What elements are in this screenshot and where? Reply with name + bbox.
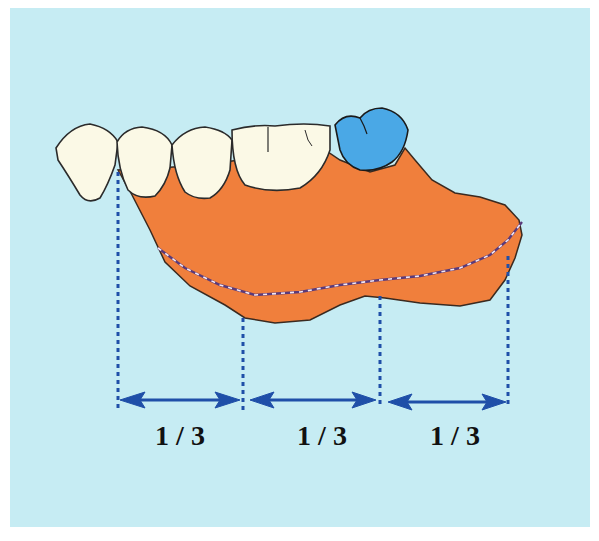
segment-label-2: 1 / 3 xyxy=(277,420,367,452)
segment-label-1: 1 / 3 xyxy=(135,420,225,452)
arrow-segment-2 xyxy=(250,392,376,408)
denture-diagram xyxy=(0,0,599,541)
arrow-segment-1 xyxy=(120,392,240,408)
arrow-segment-3 xyxy=(388,394,506,410)
tooth-1 xyxy=(56,124,118,201)
segment-label-3: 1 / 3 xyxy=(410,420,500,452)
